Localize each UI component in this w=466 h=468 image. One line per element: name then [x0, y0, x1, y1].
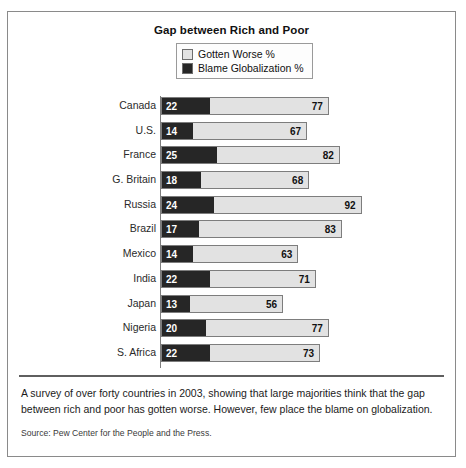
bar-row: S. Africa2273	[8, 343, 455, 368]
bar-segment-blame-globalization: 22	[162, 345, 210, 361]
bar-row-label: Japan	[8, 297, 156, 309]
legend-label-blame-globalization: Blame Globalization %	[198, 62, 304, 74]
bar-segment-gotten-worse: 77	[206, 320, 328, 336]
bar-value-gotten-worse: 67	[290, 125, 301, 136]
chart-title: Gap between Rich and Poor	[8, 12, 455, 36]
caption-text: A survey of over forty countries in 2003…	[21, 386, 442, 417]
bar-row-label: Nigeria	[8, 321, 156, 333]
bar-value-blame-globalization: 18	[166, 175, 177, 186]
bar-value-blame-globalization: 20	[166, 323, 177, 334]
figure-container: Gap between Rich and Poor Gotten Worse %…	[7, 11, 456, 457]
bar-value-blame-globalization: 25	[166, 150, 177, 161]
legend-swatch-blame-globalization	[182, 63, 193, 74]
bar: 2077	[161, 319, 329, 337]
bar-value-gotten-worse: 63	[281, 249, 292, 260]
bar-value-blame-globalization: 22	[166, 273, 177, 284]
legend-item-blame-globalization: Blame Globalization %	[182, 61, 304, 75]
bar-row: Canada2277	[8, 96, 455, 121]
bar-row: U.S.1467	[8, 121, 455, 146]
bar-value-gotten-worse: 92	[344, 199, 355, 210]
bar-segment-blame-globalization: 22	[162, 271, 210, 287]
bar: 2492	[161, 196, 362, 214]
chart-area: Gap between Rich and Poor Gotten Worse %…	[8, 12, 455, 375]
bar-row: Mexico1463	[8, 244, 455, 269]
bar-row-label: France	[8, 148, 156, 160]
bar-value-gotten-worse: 83	[325, 224, 336, 235]
bar-rows: Canada2277U.S.1467France2582G. Britain18…	[8, 96, 455, 368]
bar: 1783	[161, 220, 342, 238]
bar: 2271	[161, 270, 316, 288]
bar-value-gotten-worse: 82	[323, 150, 334, 161]
bar-segment-blame-globalization: 24	[162, 197, 214, 213]
bar-segment-blame-globalization: 22	[162, 98, 210, 114]
bar-value-blame-globalization: 13	[166, 298, 177, 309]
bar-segment-gotten-worse: 73	[210, 345, 319, 361]
bar-segment-gotten-worse: 56	[190, 296, 282, 312]
legend-item-gotten-worse: Gotten Worse %	[182, 47, 304, 61]
bar-row-label: Mexico	[8, 247, 156, 259]
bar-segment-gotten-worse: 77	[210, 98, 328, 114]
bar-row-label: U.S.	[8, 124, 156, 136]
bar-value-blame-globalization: 24	[166, 199, 177, 210]
bar-segment-blame-globalization: 20	[162, 320, 206, 336]
bar-value-gotten-worse: 73	[303, 347, 314, 358]
bar-value-gotten-worse: 56	[266, 298, 277, 309]
caption-block: A survey of over forty countries in 2003…	[8, 377, 455, 438]
bar-segment-blame-globalization: 13	[162, 296, 190, 312]
bar-row: France2582	[8, 145, 455, 170]
bar-value-gotten-worse: 68	[292, 175, 303, 186]
bar-row: Russia2492	[8, 195, 455, 220]
bar-row-label: India	[8, 272, 156, 284]
bar: 2273	[161, 344, 320, 362]
bar-segment-blame-globalization: 14	[162, 246, 193, 262]
bar-row-label: Canada	[8, 99, 156, 111]
bar-value-gotten-worse: 71	[299, 273, 310, 284]
bar-row-label: S. Africa	[8, 346, 156, 358]
legend-label-gotten-worse: Gotten Worse %	[198, 48, 275, 60]
bar-row: G. Britain1868	[8, 170, 455, 195]
bar-segment-gotten-worse: 83	[199, 221, 341, 237]
bar-value-blame-globalization: 14	[166, 125, 177, 136]
bar-segment-gotten-worse: 68	[201, 172, 308, 188]
bar-segment-blame-globalization: 18	[162, 172, 201, 188]
bar-row-label: G. Britain	[8, 173, 156, 185]
bar-segment-blame-globalization: 25	[162, 147, 217, 163]
bar-segment-gotten-worse: 71	[210, 271, 315, 287]
bar-row: Nigeria2077	[8, 318, 455, 343]
bar-plot: Canada2277U.S.1467France2582G. Britain18…	[8, 96, 455, 368]
bar-segment-gotten-worse: 92	[214, 197, 360, 213]
bar: 1868	[161, 171, 309, 189]
bar-value-blame-globalization: 22	[166, 101, 177, 112]
bar: 1356	[161, 295, 283, 313]
bar-value-gotten-worse: 77	[312, 323, 323, 334]
bar-row: Brazil1783	[8, 219, 455, 244]
bar: 1467	[161, 122, 307, 140]
bar-segment-blame-globalization: 17	[162, 221, 199, 237]
bar-row-label: Russia	[8, 198, 156, 210]
bar-row-label: Brazil	[8, 222, 156, 234]
legend-swatch-gotten-worse	[182, 49, 193, 60]
bar: 2582	[161, 146, 340, 164]
bar-segment-blame-globalization: 14	[162, 123, 193, 139]
bar-row: India2271	[8, 269, 455, 294]
bar-segment-gotten-worse: 82	[217, 147, 339, 163]
bar-value-blame-globalization: 17	[166, 224, 177, 235]
bar-value-blame-globalization: 22	[166, 347, 177, 358]
bar: 1463	[161, 245, 298, 263]
bar: 2277	[161, 97, 329, 115]
bar-segment-gotten-worse: 63	[193, 246, 298, 262]
bar-value-gotten-worse: 77	[312, 101, 323, 112]
bar-value-blame-globalization: 14	[166, 249, 177, 260]
bar-segment-gotten-worse: 67	[193, 123, 307, 139]
caption-source: Source: Pew Center for the People and th…	[21, 428, 442, 438]
chart-legend: Gotten Worse % Blame Globalization %	[176, 43, 313, 79]
bar-row: Japan1356	[8, 294, 455, 319]
